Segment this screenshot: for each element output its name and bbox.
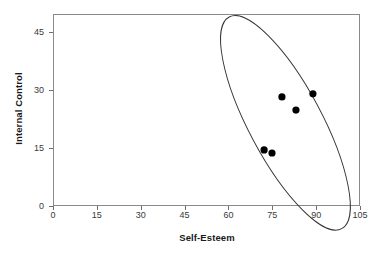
x-tick-label: 0	[50, 210, 55, 221]
y-axis-title: Internal Control	[13, 29, 24, 189]
y-tick-label: 30	[24, 84, 44, 95]
y-tick-label: 0	[24, 201, 44, 212]
y-tick-mark	[49, 148, 53, 149]
y-tick-mark	[49, 32, 53, 33]
x-axis-title: Self-Esteem	[0, 232, 392, 243]
y-tick-label: 45	[24, 26, 44, 37]
x-tick-label: 45	[180, 210, 190, 221]
x-tick-label: 75	[267, 210, 277, 221]
plot-area-frame	[53, 14, 360, 206]
scatter-plot-figure: 01530456075901050153045 Self-Esteem Inte…	[0, 0, 392, 259]
y-tick-mark	[49, 90, 53, 91]
x-tick-label: 15	[92, 210, 102, 221]
y-tick-label: 15	[24, 142, 44, 153]
x-tick-label: 105	[352, 210, 367, 221]
y-tick-mark	[49, 206, 53, 207]
x-tick-label: 60	[223, 210, 233, 221]
x-axis-title-text: Self-Esteem	[179, 232, 234, 243]
x-tick-label: 90	[311, 210, 321, 221]
x-tick-label: 30	[136, 210, 146, 221]
